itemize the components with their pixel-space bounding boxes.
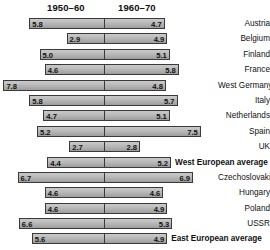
bar-value-left: 5.6: [35, 235, 46, 244]
bar-group: 7.84.8: [3, 80, 166, 91]
category-label: Czechoslovakia: [218, 173, 270, 183]
bar-value-left: 4.6: [48, 205, 59, 214]
bar-value-left: 4.7: [46, 112, 57, 121]
chart-row: 5.27.5Spain: [0, 125, 270, 140]
category-label: UK: [218, 142, 270, 152]
bar-segment-1960-70: 4.9: [104, 203, 167, 214]
bar-segment-1950-60: 2.9: [67, 33, 104, 44]
bar-value-right: 5.2: [158, 159, 169, 168]
chart-row: 4.65.8France: [0, 63, 270, 78]
chart-row: 2.94.9Belgium: [0, 32, 270, 47]
bar-group: 5.05.1: [40, 49, 170, 60]
chart-rows: 5.84.7Austria2.94.9Belgium5.05.1Finland4…: [0, 17, 270, 248]
bar-segment-1960-70: 4.8: [104, 80, 166, 91]
bar-value-left: 7.8: [6, 82, 17, 91]
bar-group: 2.94.9: [67, 33, 168, 44]
category-label: Hungary: [218, 188, 270, 198]
bar-value-left: 4.6: [48, 66, 59, 75]
bar-segment-1960-70: 7.5: [104, 126, 201, 137]
category-label: Italy: [218, 96, 270, 106]
bar-value-right: 5.1: [156, 112, 167, 121]
bar-segment-1950-60: 5.6: [32, 233, 104, 244]
bar-group: 4.45.2: [47, 157, 171, 168]
bar-segment-1950-60: 4.7: [43, 110, 104, 121]
chart-row: 5.84.7Austria: [0, 17, 270, 32]
bar-value-right: 2.8: [127, 143, 138, 152]
bar-segment-1960-70: 5.1: [104, 110, 170, 121]
bar-segment-1960-70: 5.2: [104, 157, 171, 168]
bar-group: 5.85.7: [29, 95, 177, 106]
bar-value-left: 5.2: [40, 128, 51, 137]
chart-row: 2.72.8UK: [0, 140, 270, 155]
category-label: Spain: [218, 127, 270, 137]
legend-label-period-1950-60: 1950–60: [47, 2, 85, 13]
bar-value-left: 4.4: [50, 159, 61, 168]
legend-label-period-1960-70: 1960–70: [118, 2, 156, 13]
bar-segment-1950-60: 4.6: [45, 64, 104, 75]
bar-value-right: 5.3: [159, 220, 170, 229]
bar-value-right: 6.9: [179, 174, 190, 183]
chart-row: 4.45.2West European average: [0, 156, 270, 171]
chart-row: 6.76.9Czechoslovakia: [0, 171, 270, 186]
chart-row: 5.05.1Finland: [0, 48, 270, 63]
bar-value-right: 5.8: [165, 66, 176, 75]
bar-segment-1950-60: 6.7: [18, 172, 104, 183]
chart-row: 5.64.9East European average: [0, 232, 270, 247]
bar-segment-1950-60: 5.8: [29, 95, 104, 106]
bar-value-left: 5.0: [43, 51, 54, 60]
bar-segment-1960-70: 2.8: [104, 141, 140, 152]
category-label: East European average: [171, 234, 262, 244]
bar-segment-1960-70: 4.7: [104, 18, 165, 29]
bar-value-left: 2.7: [72, 143, 83, 152]
bar-segment-1950-60: 4.6: [45, 203, 104, 214]
bar-segment-1960-70: 5.7: [104, 95, 178, 106]
bar-segment-1960-70: 4.6: [104, 187, 163, 198]
bar-segment-1950-60: 5.2: [37, 126, 104, 137]
chart-row: 4.75.1Netherlands: [0, 109, 270, 124]
bar-value-left: 6.7: [21, 174, 32, 183]
chart-legend-header: 1950–60 1960–70: [0, 2, 215, 15]
bar-group: 5.64.9: [32, 233, 167, 244]
bar-group: 4.64.6: [45, 187, 164, 198]
bar-value-left: 5.8: [32, 97, 43, 106]
bar-group: 5.27.5: [37, 126, 201, 137]
bar-segment-1960-70: 6.9: [104, 172, 193, 183]
bar-value-right: 7.5: [187, 128, 198, 137]
chart-row: 6.65.3USSR: [0, 217, 270, 232]
bar-group: 6.65.3: [19, 218, 173, 229]
bar-value-right: 4.8: [152, 82, 163, 91]
bar-group: 2.72.8: [69, 141, 140, 152]
bar-value-right: 4.9: [154, 35, 165, 44]
bar-group: 6.76.9: [18, 172, 193, 183]
bar-value-right: 4.6: [150, 189, 161, 198]
chart-row: 4.64.6Hungary: [0, 186, 270, 201]
bar-group: 5.84.7: [29, 18, 164, 29]
bar-value-left: 2.9: [70, 35, 81, 44]
bar-segment-1950-60: 7.8: [3, 80, 104, 91]
category-label: Belgium: [218, 34, 270, 44]
bar-segment-1950-60: 5.0: [40, 49, 105, 60]
category-label: West European average: [175, 158, 268, 168]
bar-segment-1960-70: 5.8: [104, 64, 179, 75]
bar-value-left: 5.8: [32, 20, 43, 29]
bar-segment-1960-70: 4.9: [104, 33, 167, 44]
bar-value-right: 5.7: [164, 97, 175, 106]
category-label: USSR: [218, 219, 270, 229]
bar-group: 4.65.8: [45, 64, 179, 75]
category-label: Poland: [218, 204, 270, 214]
bar-segment-1950-60: 4.6: [45, 187, 104, 198]
bar-value-right: 5.1: [156, 51, 167, 60]
bar-segment-1950-60: 5.8: [29, 18, 104, 29]
bar-value-right: 4.7: [151, 20, 162, 29]
bar-value-left: 4.6: [48, 189, 59, 198]
bar-group: 4.64.9: [45, 203, 168, 214]
bar-segment-1960-70: 4.9: [104, 233, 167, 244]
category-label: West Germany: [218, 81, 270, 91]
bar-segment-1950-60: 4.4: [47, 157, 104, 168]
category-label: Netherlands: [218, 111, 270, 121]
bar-value-left: 6.6: [22, 220, 33, 229]
bar-segment-1950-60: 6.6: [19, 218, 104, 229]
chart-row: 4.64.9Poland: [0, 202, 270, 217]
category-label: France: [218, 65, 270, 75]
chart-row: 7.84.8West Germany: [0, 79, 270, 94]
